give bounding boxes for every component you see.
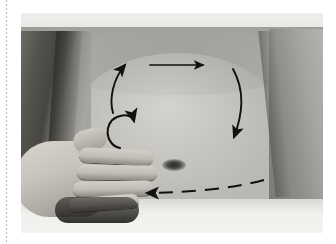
arrow-descending-colon [233, 69, 241, 137]
arrow-ascending-colon [112, 65, 126, 113]
dotted-guide-rule [6, 0, 7, 244]
massage-direction-arrows [21, 13, 323, 233]
clinical-photograph [21, 13, 323, 233]
arrow-sigmoid-dashed [147, 180, 264, 193]
page-canvas [0, 0, 336, 244]
arrow-caecum-hook [108, 115, 134, 148]
